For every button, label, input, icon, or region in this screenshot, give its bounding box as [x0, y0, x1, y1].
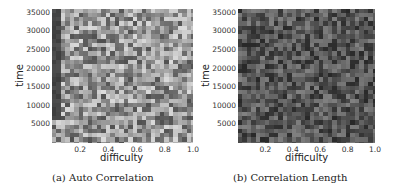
panel-auto-correlation: time 5000100001500020000250003000035000 …	[0, 0, 199, 196]
y-tick-label: 10000	[196, 101, 236, 110]
y-tick-label: 20000	[10, 64, 50, 73]
y-tick-label: 5000	[196, 119, 236, 128]
caption: (a) Auto Correlation	[52, 172, 154, 183]
y-tick-label: 10000	[10, 101, 50, 110]
x-axis-label: difficulty	[100, 152, 143, 163]
y-tick-label: 25000	[10, 45, 50, 54]
x-tick-label: 0.8	[155, 145, 175, 154]
y-tick-label: 35000	[196, 8, 236, 17]
x-tick-label: 0.2	[255, 145, 275, 154]
y-tick-label: 35000	[10, 8, 50, 17]
y-tick-label: 30000	[196, 26, 236, 35]
y-tick-label: 15000	[10, 82, 50, 91]
x-tick-label: 0.8	[338, 145, 358, 154]
heatmap-correlation-length	[238, 9, 375, 143]
y-tick-label: 30000	[10, 26, 50, 35]
y-tick-label: 5000	[10, 119, 50, 128]
x-tick-label: 0.2	[70, 145, 90, 154]
y-tick-label: 25000	[196, 45, 236, 54]
y-tick-label: 15000	[196, 82, 236, 91]
x-tick-label: 1.0	[365, 145, 385, 154]
panel-correlation-length: time 5000100001500020000250003000035000 …	[199, 0, 398, 196]
x-axis-label: difficulty	[285, 152, 328, 163]
y-tick-label: 20000	[196, 64, 236, 73]
caption: (b) Correlation Length	[233, 172, 347, 183]
heatmap-auto-correlation	[52, 9, 193, 143]
